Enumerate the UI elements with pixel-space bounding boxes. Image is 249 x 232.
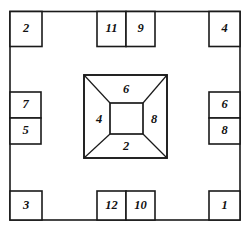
- edge-box-1: 1: [209, 191, 240, 220]
- frustum-face-bottom-label: 2: [122, 139, 129, 153]
- diagram-canvas: 2 11 9 4 7 5 6: [0, 0, 249, 232]
- edge-box-11-label: 11: [106, 21, 118, 35]
- edge-box-7-label: 7: [22, 97, 29, 111]
- edge-box-4: 4: [209, 12, 240, 47]
- edge-box-7: 7: [10, 92, 41, 118]
- center-truncated-pyramid: 6 4 8 2: [84, 75, 167, 158]
- frustum-face-left-label: 4: [95, 112, 102, 126]
- diagram-svg: 2 11 9 4 7 5 6: [0, 0, 249, 232]
- edge-box-6-right: 6: [209, 92, 240, 118]
- frustum-face-right-label: 8: [151, 112, 158, 126]
- edge-box-10: 10: [126, 191, 155, 220]
- edge-box-3-label: 3: [22, 198, 29, 212]
- edge-box-8-right-label: 8: [221, 123, 228, 137]
- edge-box-8-right: 8: [209, 118, 240, 144]
- edge-box-9-label: 9: [137, 21, 144, 35]
- edge-box-1-label: 1: [221, 198, 227, 212]
- edge-box-3: 3: [10, 191, 42, 220]
- edge-box-11: 11: [97, 12, 126, 47]
- frustum-face-top-label: 6: [123, 82, 130, 96]
- edge-box-5: 5: [10, 118, 41, 144]
- edge-box-5-label: 5: [22, 123, 28, 137]
- edge-box-12-label: 12: [105, 198, 118, 212]
- edge-box-2-label: 2: [22, 21, 29, 35]
- edge-box-9: 9: [126, 12, 155, 47]
- edge-box-4-label: 4: [220, 21, 227, 35]
- edge-box-2: 2: [10, 12, 42, 47]
- frustum-inner-square: [110, 103, 143, 134]
- edge-box-10-label: 10: [134, 198, 147, 212]
- edge-box-12: 12: [97, 191, 126, 220]
- edge-box-6-right-label: 6: [221, 97, 228, 111]
